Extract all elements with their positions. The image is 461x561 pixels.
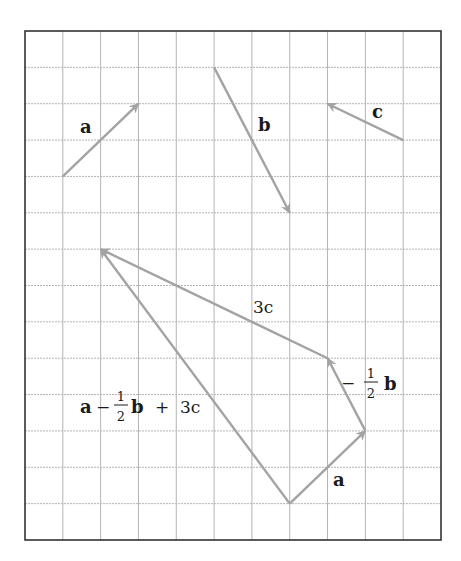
svg-text:+: + xyxy=(155,397,169,417)
label-neg-half-b: − 1 2 b xyxy=(341,366,397,401)
svg-text:2: 2 xyxy=(117,409,125,424)
svg-text:1: 1 xyxy=(117,389,125,404)
svg-text:3c: 3c xyxy=(180,397,200,417)
svg-text:a: a xyxy=(80,396,92,417)
svg-text:2: 2 xyxy=(367,386,375,401)
svg-text:1: 1 xyxy=(367,366,375,381)
vector-arrow-resultant xyxy=(101,249,290,504)
svg-text:b: b xyxy=(384,373,397,394)
vector-diagram: a b c 3c − 1 2 b a a − 1 2 b + 3c xyxy=(0,0,461,561)
svg-text:b: b xyxy=(131,396,144,417)
label-vector-a: a xyxy=(80,116,92,137)
label-vector-b: b xyxy=(258,114,271,135)
svg-text:−: − xyxy=(96,397,110,417)
label-vector-3c: 3c xyxy=(253,297,273,317)
label-vector-a-bottom: a xyxy=(333,469,345,490)
label-vector-c: c xyxy=(372,101,383,122)
svg-text:−: − xyxy=(341,373,355,393)
